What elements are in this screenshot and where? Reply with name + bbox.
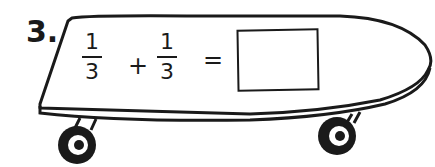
- fraction-1-numerator: 1: [85, 29, 99, 54]
- fraction-1-denominator: 3: [85, 59, 99, 84]
- plus-operator: +: [128, 52, 148, 80]
- right-wheel-icon: [318, 117, 356, 155]
- skateboard-illustration: [0, 0, 435, 167]
- fraction-2: 1 3: [157, 30, 177, 84]
- fraction-bar: [82, 56, 102, 58]
- fraction-1: 1 3: [82, 30, 102, 84]
- fraction-bar: [157, 56, 177, 58]
- equals-sign: =: [203, 46, 223, 74]
- fraction-2-denominator: 3: [160, 59, 174, 84]
- fraction-2-numerator: 1: [160, 29, 174, 54]
- left-wheel-icon: [58, 126, 96, 164]
- problem-number: 3.: [26, 14, 58, 49]
- answer-box[interactable]: [236, 28, 319, 91]
